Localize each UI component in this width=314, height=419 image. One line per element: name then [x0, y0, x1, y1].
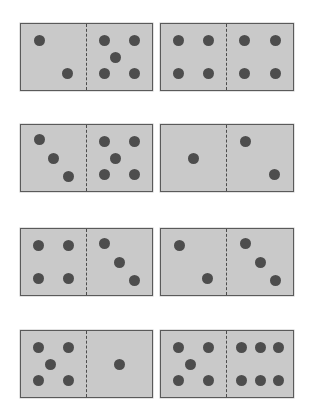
domino-pip	[236, 342, 247, 353]
domino-pip	[188, 153, 199, 164]
domino-pip	[33, 375, 44, 386]
domino-pip	[203, 375, 214, 386]
domino-pip	[255, 342, 266, 353]
domino-pip	[239, 68, 250, 79]
domino-half-right	[227, 331, 293, 397]
domino-pip	[63, 240, 74, 251]
domino-pip	[114, 257, 125, 268]
domino-pip	[174, 240, 185, 251]
domino-half-right	[87, 331, 153, 397]
domino-half-left	[21, 229, 87, 295]
domino-pip	[255, 257, 266, 268]
domino-pip	[48, 153, 59, 164]
domino-pip	[240, 238, 251, 249]
domino-pip	[99, 35, 110, 46]
domino-tile[interactable]	[160, 124, 294, 192]
domino-pip	[33, 342, 44, 353]
domino-tile[interactable]	[160, 330, 294, 398]
domino-pip	[173, 342, 184, 353]
domino-pip	[240, 136, 251, 147]
domino-half-left	[161, 125, 227, 191]
domino-pip	[129, 68, 140, 79]
domino-pip	[269, 169, 280, 180]
domino-half-right	[227, 24, 293, 90]
domino-half-right	[227, 125, 293, 191]
domino-tile[interactable]	[20, 23, 153, 91]
domino-board	[0, 0, 314, 419]
domino-pip	[110, 52, 121, 63]
domino-half-left	[21, 24, 87, 90]
domino-pip	[63, 171, 74, 182]
domino-half-right	[87, 24, 153, 90]
domino-half-right	[87, 125, 153, 191]
domino-pip	[270, 275, 281, 286]
domino-pip	[129, 35, 140, 46]
domino-tile[interactable]	[20, 124, 153, 192]
domino-tile[interactable]	[160, 23, 294, 91]
domino-pip	[270, 68, 281, 79]
domino-pip	[273, 375, 284, 386]
domino-pip	[185, 359, 196, 370]
domino-pip	[63, 375, 74, 386]
domino-pip	[33, 240, 44, 251]
domino-half-left	[161, 24, 227, 90]
domino-pip	[99, 169, 110, 180]
domino-tile[interactable]	[20, 330, 153, 398]
domino-pip	[270, 35, 281, 46]
domino-pip	[255, 375, 266, 386]
domino-pip	[63, 273, 74, 284]
domino-half-left	[21, 331, 87, 397]
domino-pip	[45, 359, 56, 370]
domino-pip	[99, 238, 110, 249]
domino-half-left	[161, 229, 227, 295]
domino-pip	[110, 153, 121, 164]
domino-pip	[173, 68, 184, 79]
domino-half-right	[227, 229, 293, 295]
domino-pip	[34, 134, 45, 145]
domino-pip	[63, 342, 74, 353]
domino-pip	[173, 35, 184, 46]
domino-pip	[129, 169, 140, 180]
domino-pip	[99, 136, 110, 147]
domino-pip	[202, 273, 213, 284]
domino-pip	[203, 35, 214, 46]
domino-pip	[129, 136, 140, 147]
domino-pip	[33, 273, 44, 284]
domino-pip	[239, 35, 250, 46]
domino-pip	[203, 342, 214, 353]
domino-pip	[273, 342, 284, 353]
domino-half-left	[21, 125, 87, 191]
domino-pip	[114, 359, 125, 370]
domino-pip	[129, 275, 140, 286]
domino-tile[interactable]	[20, 228, 153, 296]
domino-pip	[99, 68, 110, 79]
domino-pip	[173, 375, 184, 386]
domino-pip	[236, 375, 247, 386]
domino-pip	[62, 68, 73, 79]
domino-half-left	[161, 331, 227, 397]
domino-half-right	[87, 229, 153, 295]
domino-pip	[34, 35, 45, 46]
domino-tile[interactable]	[160, 228, 294, 296]
domino-pip	[203, 68, 214, 79]
